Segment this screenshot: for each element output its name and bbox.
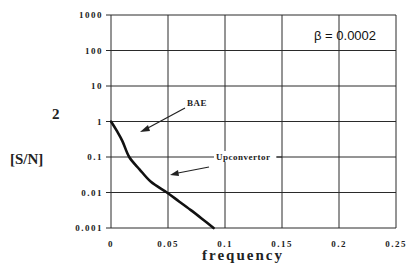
grid [106, 15, 396, 228]
y-tick-label: 0.01 [81, 188, 103, 198]
y-tick-label: 0.1 [87, 152, 103, 162]
y-axis-label-superscript: 2 [52, 106, 60, 122]
x-tick-label: 0.25 [385, 239, 407, 249]
y-axis-label: [S/N] [10, 151, 43, 167]
data-curve [111, 122, 214, 229]
x-tick-label: 0.2 [331, 239, 347, 249]
x-tick-label: 0.05 [157, 239, 179, 249]
y-tick-label: 1 [97, 117, 103, 127]
bae-label: BAE [187, 98, 207, 108]
bae-arrowhead-icon [140, 125, 150, 132]
x-tick-label: 0 [108, 239, 114, 249]
x-axis-label: frequency [202, 247, 284, 263]
beta-annotation: β = 0.0002 [314, 28, 376, 43]
upconvertor-label: Upconvertor [216, 152, 271, 162]
y-tick-label: 10 [91, 81, 103, 91]
y-tick-label: 0.001 [75, 223, 103, 233]
bae-arrow-line [146, 108, 185, 129]
chart: 10001001010.10.010.001 00.050.10.150.20.… [0, 0, 419, 277]
upconvertor-arrowhead-icon [170, 170, 179, 176]
y-tick-label: 100 [85, 46, 103, 56]
y-tick-label: 1000 [79, 10, 103, 20]
y-tick-labels: 10001001010.10.010.001 [75, 10, 103, 233]
upconvertor-arrow-line [178, 167, 209, 173]
